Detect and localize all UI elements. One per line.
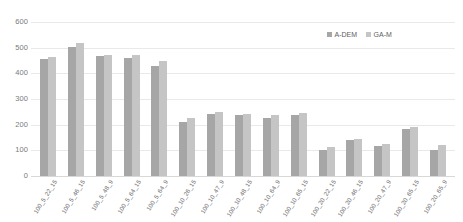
chart-legend: A-DEMGA-M: [327, 31, 392, 38]
y-tick-label: 400: [0, 70, 28, 78]
bar-ga-m: [438, 145, 446, 176]
bar-ga-m: [76, 43, 84, 176]
x-tick-label: 100_5_46_15: [60, 179, 86, 215]
bar-ga-m: [104, 55, 112, 176]
bar-group: [257, 22, 285, 176]
bar-ga-m: [299, 113, 307, 176]
bar-a-dem: [179, 122, 187, 176]
y-tick-label: 100: [0, 147, 28, 155]
legend-label: GA-M: [374, 31, 392, 38]
bar-group: [368, 22, 396, 176]
bar-a-dem: [124, 58, 132, 176]
bar-group: [118, 22, 146, 176]
bar-a-dem: [263, 118, 271, 176]
bar-group: [145, 22, 173, 176]
bar-a-dem: [291, 115, 299, 176]
y-tick-label: 500: [0, 44, 28, 52]
legend-swatch-icon: [366, 32, 371, 37]
bar-a-dem: [235, 115, 243, 176]
bar-a-dem: [374, 146, 382, 176]
bar-a-dem: [207, 114, 215, 176]
bar-group: [34, 22, 62, 176]
bar-group: [340, 22, 368, 176]
y-tick-label: 600: [0, 18, 28, 26]
x-tick-label: 100_5_64_9: [146, 179, 170, 212]
bar-ga-m: [215, 112, 223, 176]
bar-chart: 6005004003002001000 100_5_22_15100_5_46_…: [0, 0, 463, 222]
bar-ga-m: [327, 147, 335, 176]
bar-group: [396, 22, 424, 176]
bar-a-dem: [68, 47, 76, 176]
bar-group: [201, 22, 229, 176]
bar-a-dem: [40, 59, 48, 176]
bar-ga-m: [187, 118, 195, 176]
bar-ga-m: [271, 115, 279, 176]
bar-a-dem: [346, 140, 354, 176]
bar-group: [229, 22, 257, 176]
x-tick-label: 100_20_46_15: [337, 179, 364, 218]
x-tick-label: 100_20_22_15: [309, 179, 336, 218]
legend-swatch-icon: [327, 32, 332, 37]
x-tick-label: 100_10_47_9: [200, 179, 226, 215]
bar-a-dem: [430, 150, 438, 176]
bar-ga-m: [382, 144, 390, 176]
x-tick-label: 100_5_22_15: [33, 179, 59, 215]
bar-ga-m: [159, 61, 167, 177]
x-tick-label: 100_5_64_15: [116, 179, 142, 215]
y-tick-label: 0: [0, 172, 28, 180]
bar-group: [173, 22, 201, 176]
bar-ga-m: [48, 57, 56, 176]
x-tick-label: 100_20_47_9: [367, 179, 393, 215]
legend-label: A-DEM: [335, 31, 358, 38]
bar-ga-m: [410, 127, 418, 176]
bar-group: [62, 22, 90, 176]
bar-a-dem: [151, 66, 159, 176]
legend-item[interactable]: A-DEM: [327, 31, 357, 38]
x-tick-label: 100_10_26_15: [170, 179, 197, 218]
bar-group: [285, 22, 313, 176]
y-tick-label: 200: [0, 121, 28, 129]
bar-ga-m: [132, 55, 140, 176]
bar-groups: [31, 22, 455, 176]
x-tick-label: 100_10_48_15: [226, 179, 253, 218]
bar-group: [424, 22, 452, 176]
x-tick-label: 100_5_48_9: [90, 179, 114, 212]
bar-a-dem: [402, 129, 410, 176]
x-tick-label: 100_10_65_15: [282, 179, 309, 218]
x-tick-label: 100_20_65_15: [393, 179, 420, 218]
plot-area: [31, 22, 455, 176]
x-tick-label: 100_20_65_9: [423, 179, 449, 215]
x-tick-label: 100_10_64_9: [256, 179, 282, 215]
legend-item[interactable]: GA-M: [366, 31, 392, 38]
y-tick-label: 300: [0, 95, 28, 103]
x-axis-labels: 100_5_22_15100_5_46_15100_5_48_9100_5_64…: [31, 177, 455, 222]
bar-group: [90, 22, 118, 176]
bar-ga-m: [243, 114, 251, 176]
bar-ga-m: [354, 139, 362, 176]
bar-a-dem: [319, 150, 327, 176]
bar-a-dem: [96, 56, 104, 176]
y-axis-labels: 6005004003002001000: [0, 22, 28, 176]
bar-group: [313, 22, 341, 176]
